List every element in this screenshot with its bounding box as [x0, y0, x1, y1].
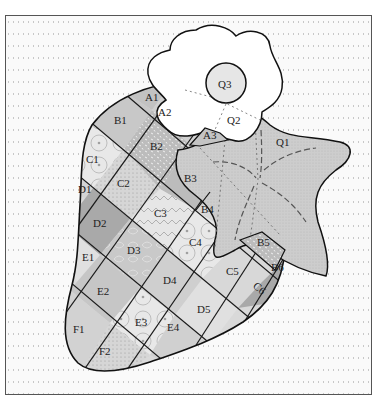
label-D1: D1 [78, 183, 91, 195]
label-B6: B6 [271, 261, 284, 273]
label-Q2: Q2 [227, 114, 240, 126]
label-A2: A2 [158, 106, 171, 118]
label-E3: E3 [135, 316, 148, 328]
label-Q3: Q3 [218, 78, 232, 90]
label-B2: B2 [150, 140, 163, 152]
label-B5: B5 [257, 236, 270, 248]
label-E2: E2 [97, 285, 109, 297]
label-C3: C3 [154, 207, 167, 219]
label-C5: C5 [226, 265, 239, 277]
label-C1: C1 [86, 153, 99, 165]
label-A1: A1 [145, 91, 158, 103]
label-D3: D3 [127, 244, 141, 256]
label-D4: D4 [163, 274, 177, 286]
label-C2: C2 [117, 177, 130, 189]
label-D2: D2 [93, 217, 106, 229]
label-B1: B1 [114, 114, 127, 126]
label-A3: A3 [203, 129, 217, 141]
label-Q1: Q1 [276, 136, 289, 148]
label-F2: F2 [99, 345, 111, 357]
label-C4: C4 [189, 236, 202, 248]
label-E1: E1 [82, 251, 94, 263]
label-F1: F1 [73, 323, 85, 335]
label-E4: E4 [167, 321, 180, 333]
label-B4: B4 [201, 203, 214, 215]
label-D5: D5 [197, 303, 211, 315]
strawberry-diagram: A1 A2 A3 B1 B2 B3 B4 B5 B6 C1 C2 C3 C4 C… [0, 0, 382, 409]
label-B3: B3 [184, 172, 197, 184]
